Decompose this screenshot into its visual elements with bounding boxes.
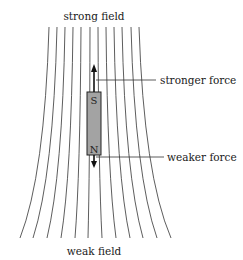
force-up-arrow-icon — [91, 64, 97, 72]
weak-field-label: weak field — [67, 245, 122, 257]
field-line — [61, 27, 73, 238]
field-line — [75, 27, 81, 238]
field-line — [122, 27, 143, 238]
stronger-force-label: stronger force — [160, 74, 236, 86]
magnet-in-nonuniform-field-diagram: strong field weak field S N stronger for… — [0, 0, 243, 260]
force-down-arrow-icon — [91, 161, 97, 168]
south-pole-label: S — [91, 95, 98, 106]
north-pole-label: N — [90, 144, 99, 155]
field-line — [131, 27, 157, 238]
field-line — [20, 27, 49, 238]
strong-field-label: strong field — [63, 10, 124, 22]
weaker-force-label: weaker force — [167, 151, 237, 163]
field-line — [114, 27, 130, 238]
field-line — [139, 27, 171, 238]
